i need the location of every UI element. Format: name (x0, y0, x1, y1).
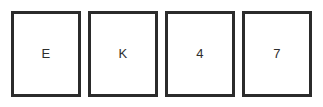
card-face-value: K (119, 47, 128, 60)
card-face-value: 4 (196, 47, 204, 60)
card[interactable]: K (88, 11, 158, 97)
card[interactable]: 7 (242, 11, 312, 97)
card[interactable]: 4 (165, 11, 235, 97)
card[interactable]: E (11, 11, 81, 97)
card-face-value: E (42, 47, 51, 60)
card-row: E K 4 7 (11, 11, 312, 97)
card-face-value: 7 (273, 47, 281, 60)
